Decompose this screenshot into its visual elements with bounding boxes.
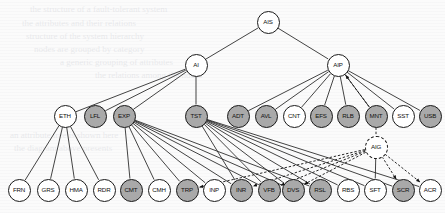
node-label-ais: AIS <box>263 19 272 25</box>
node-label-rlb: RLB <box>342 113 353 119</box>
node-lfl[interactable]: LFL <box>84 105 107 128</box>
node-eth[interactable]: ETH <box>54 105 77 128</box>
diagram-canvas: the structure of a fault-tolerant system… <box>0 0 445 213</box>
node-vfb[interactable]: VFB <box>258 179 281 202</box>
node-label-aip: AIP <box>333 62 342 68</box>
node-label-efs: EFS <box>315 113 326 119</box>
node-grs[interactable]: GRS <box>37 179 60 202</box>
node-aig[interactable]: AIG <box>365 136 388 159</box>
node-cmh[interactable]: CMH <box>148 179 171 202</box>
node-exp[interactable]: EXP <box>113 105 136 128</box>
node-usb[interactable]: USB <box>419 105 442 128</box>
node-acr[interactable]: ACR <box>419 179 442 202</box>
node-label-cmh: CMH <box>152 187 166 193</box>
node-avl[interactable]: AVL <box>255 105 278 128</box>
node-frn[interactable]: FRN <box>8 179 31 202</box>
node-label-hma: HMA <box>69 187 82 193</box>
node-label-exp: EXP <box>118 113 130 119</box>
node-label-acr: ACR <box>424 187 436 193</box>
node-label-cmt: CMT <box>125 187 138 193</box>
node-label-usb: USB <box>424 113 436 119</box>
node-label-lfl: LFL <box>90 113 100 119</box>
node-label-inp: INP <box>209 187 219 193</box>
node-label-grs: GRS <box>42 187 55 193</box>
node-label-rdr: RDR <box>98 187 111 193</box>
node-trp[interactable]: TRP <box>176 179 199 202</box>
node-label-dvs: DVS <box>287 187 299 193</box>
node-label-rbs: RBS <box>342 187 354 193</box>
node-inr[interactable]: INR <box>230 179 253 202</box>
node-label-inr: INR <box>236 187 246 193</box>
node-label-vfb: VFB <box>263 187 274 193</box>
node-label-scr: SCR <box>397 187 409 193</box>
node-rsl[interactable]: RSL <box>309 179 332 202</box>
node-cnt[interactable]: CNT <box>283 105 306 128</box>
node-dvs[interactable]: DVS <box>282 179 305 202</box>
node-rdr[interactable]: RDR <box>93 179 116 202</box>
node-label-ai: AI <box>193 62 198 68</box>
node-label-avl: AVL <box>261 113 272 119</box>
node-label-eth: ETH <box>59 113 71 119</box>
node-label-mnt: MNT <box>370 113 383 119</box>
node-label-tst: TST <box>190 113 201 119</box>
node-label-rsl: RSL <box>314 187 325 193</box>
node-label-sst: SST <box>397 113 408 119</box>
node-sst[interactable]: SST <box>392 105 415 128</box>
node-rlb[interactable]: RLB <box>337 105 360 128</box>
node-inp[interactable]: INP <box>203 179 226 202</box>
node-cmt[interactable]: CMT <box>120 179 143 202</box>
node-label-adt: ADT <box>232 113 244 119</box>
node-ai[interactable]: AI <box>185 54 208 77</box>
node-label-aig: AIG <box>371 144 381 150</box>
node-tst[interactable]: TST <box>185 105 208 128</box>
node-label-sft: SFT <box>369 187 380 193</box>
node-sft[interactable]: SFT <box>364 179 387 202</box>
node-rbs[interactable]: RBS <box>337 179 360 202</box>
node-adt[interactable]: ADT <box>227 105 250 128</box>
node-scr[interactable]: SCR <box>392 179 415 202</box>
nodes-layer: AISAIAIPETHLFLEXPTSTADTAVLCNTEFSRLBMNTSS… <box>0 0 445 213</box>
node-label-frn: FRN <box>13 187 25 193</box>
node-aip[interactable]: AIP <box>327 54 350 77</box>
node-label-cnt: CNT <box>288 113 300 119</box>
node-hma[interactable]: HMA <box>65 179 88 202</box>
node-label-trp: TRP <box>181 187 193 193</box>
node-mnt[interactable]: MNT <box>365 105 388 128</box>
node-efs[interactable]: EFS <box>310 105 333 128</box>
node-ais[interactable]: AIS <box>257 11 280 34</box>
